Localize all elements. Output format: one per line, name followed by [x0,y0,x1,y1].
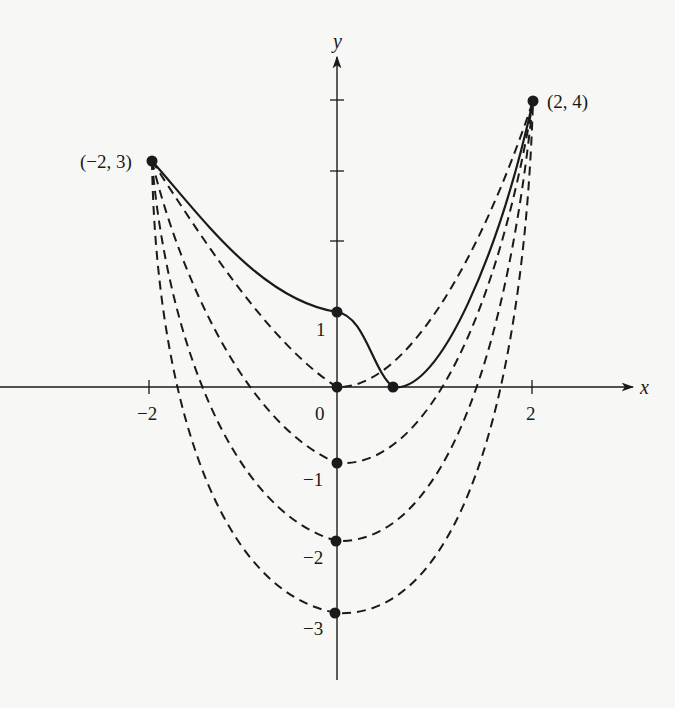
dashed-curve-vertex-neg3 [152,101,533,613]
y-tick-label-neg1: −1 [303,469,323,490]
x-tick-label-2: 2 [526,403,536,424]
point-0-neg1-dot [332,458,343,469]
point-solid-min-dot [388,382,399,393]
y-axis-label: y [331,30,342,53]
y-tick-label-neg3: −3 [303,618,323,639]
endpoint-left-label: (−2, 3) [80,151,132,173]
endpoint-left-dot [147,156,158,167]
x-tick-label-0: 0 [315,403,325,424]
dashed-curve-vertex-neg1 [152,101,533,463]
endpoint-right-dot [528,96,539,107]
y-tick-label-1: 1 [316,319,326,340]
dashed-curve-vertex-0 [152,101,533,387]
endpoint-right-label: (2, 4) [547,91,588,113]
point-0-neg2-dot [331,536,342,547]
y-tick-label-neg2: −2 [303,547,323,568]
x-axis-label: x [639,376,649,398]
dashed-curve-vertex-neg2 [152,101,533,541]
point-0-neg3-dot [330,608,341,619]
function-family-diagram: x y −2 0 2 1 −1 −2 −3 (−2, 3) (2, 4) [0,0,675,708]
point-0-0-dot [332,382,343,393]
point-0-1-dot [332,307,343,318]
x-tick-label-neg2: −2 [137,403,157,424]
